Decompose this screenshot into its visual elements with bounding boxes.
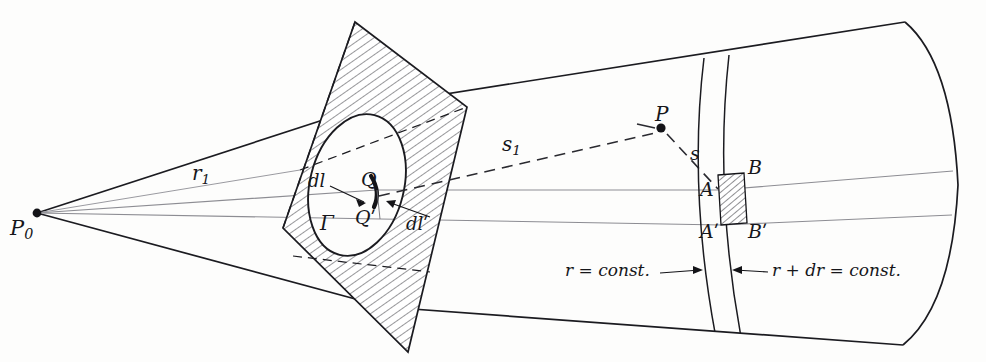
- label-arc-inner: r = const.: [565, 262, 650, 279]
- label-point-A: A: [700, 180, 714, 199]
- label-element-dl: dl: [308, 172, 325, 190]
- surface-element-ABBA: [718, 173, 747, 225]
- label-distance-s1: s1: [502, 134, 521, 158]
- label-point-Q: Q: [361, 170, 377, 189]
- figure-canvas: [0, 0, 986, 362]
- diffraction-geometry-figure: P0 r1 Γ dl Q Qʹ dlʹ s1 P s B A Aʹ Bʹ r =…: [0, 0, 986, 362]
- label-point-A-prime: Aʹ: [700, 222, 719, 241]
- label-point-Q-prime: Qʹ: [355, 208, 376, 227]
- label-aperture-contour: Γ: [320, 213, 334, 233]
- label-radius-r1: r1: [192, 163, 210, 187]
- label-distance-s: s: [690, 144, 700, 163]
- label-arc-outer: r + dr = const.: [772, 262, 901, 279]
- label-point-B-prime: Bʹ: [748, 222, 767, 241]
- label-point-B: B: [748, 158, 762, 177]
- opaque-screen-plate: [0, 0, 986, 362]
- label-element-dl-prime: dlʹ: [406, 215, 428, 233]
- label-source-point: P0: [10, 218, 33, 242]
- label-observation-point: P: [655, 104, 668, 124]
